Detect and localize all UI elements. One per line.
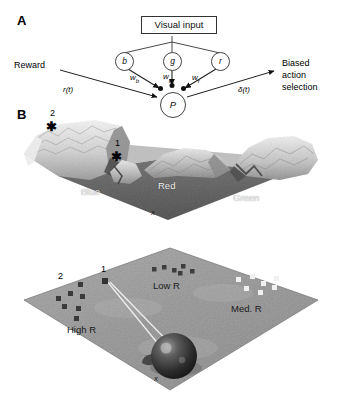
bottom-axis-x-mark: x xyxy=(154,374,158,383)
top-axis-x-mark: x xyxy=(151,208,155,217)
region-label-med-r: Med. R xyxy=(231,303,262,314)
node-g: g xyxy=(163,52,182,71)
output-signal-label: δ(t) xyxy=(238,86,250,95)
weight-wg: wg xyxy=(163,73,172,83)
top-marker-1-star: ✱ xyxy=(111,150,122,163)
weight-wb: wb xyxy=(130,74,139,84)
biased-action-line3: selection xyxy=(282,82,318,92)
biased-action-line2: action xyxy=(282,70,306,80)
weight-wr-sub: r xyxy=(198,78,200,84)
bottom-marker-1-number: 1 xyxy=(101,264,106,274)
top-marker-2-number: 2 xyxy=(50,108,55,118)
reward-label: Reward xyxy=(14,60,45,70)
top-marker-2-star: ✱ xyxy=(46,120,57,133)
node-b: b xyxy=(115,52,134,71)
cube-marker-1 xyxy=(102,278,108,284)
bottom-marker-2-number: 2 xyxy=(58,271,63,281)
reward-landscape-surface: 2 ✱ 1 ✱ Blue Red Green x xyxy=(18,114,323,222)
node-r: r xyxy=(211,52,230,71)
landscape-svg xyxy=(18,114,323,222)
band-label-red: Red xyxy=(158,180,175,191)
reward-arena-plane: 2 1 High R Low R Med. R x xyxy=(18,238,323,410)
band-label-green: Green xyxy=(233,192,259,203)
figure-root: A Visual input xyxy=(0,0,339,415)
region-label-low-r: Low R xyxy=(153,280,180,291)
visual-input-box: Visual input xyxy=(141,16,217,34)
arena-svg xyxy=(18,238,323,410)
weight-wr: wr xyxy=(192,74,200,84)
top-marker-1-number: 1 xyxy=(115,138,120,148)
reward-signal-label: r(t) xyxy=(63,86,73,95)
band-label-blue: Blue xyxy=(81,186,100,197)
panel-letter-a: A xyxy=(17,14,26,29)
weight-wb-sub: b xyxy=(136,78,139,84)
weight-wg-sub: g xyxy=(169,77,172,83)
biased-action-line1: Biased xyxy=(282,58,310,68)
region-label-high-r: High R xyxy=(67,324,96,335)
